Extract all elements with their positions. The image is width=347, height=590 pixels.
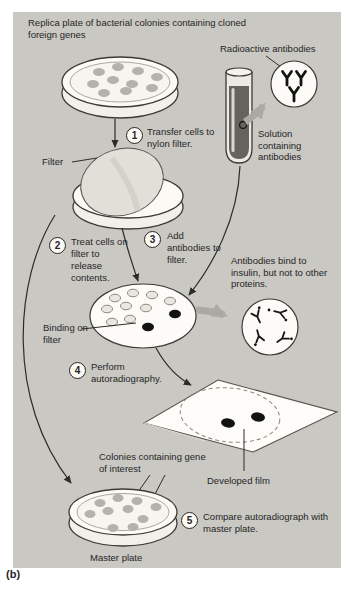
step-5-badge: 5 <box>181 512 198 529</box>
replica-plate-dish-icon <box>62 57 178 118</box>
step-2-badge: 2 <box>49 237 66 254</box>
colonies-containing-label: Colonies containing gene of interest <box>99 451 213 474</box>
step-3-label: Add antibodies to filter. <box>167 230 223 266</box>
step-1-label: Transfer cells to nylon filter. <box>147 126 219 150</box>
solution-label: Solution containing antibodies <box>258 128 316 163</box>
step-5-label: Compare autoradiograph with master plate… <box>203 511 338 535</box>
panel-letter-label: (b) <box>6 568 20 580</box>
developed-film-label: Developed film <box>207 475 270 487</box>
figure-immunoscreening-diagram: Replica plate of bacterial colonies cont… <box>0 0 347 590</box>
master-plate-label: Master plate <box>90 552 142 564</box>
step-4-label: Perform autoradiography. <box>91 361 186 385</box>
bound-antibodies-icon <box>242 299 298 355</box>
bound-colony-spot <box>142 323 154 331</box>
step-3-badge: 3 <box>144 231 161 248</box>
master-plate-dish-icon <box>69 489 177 546</box>
filter-dish-icon <box>72 138 183 229</box>
radioactive-antibodies-label: Radioactive antibodies <box>220 43 316 55</box>
replica-to-master-arrow <box>23 215 71 483</box>
step-2-label: Treat cells on filter to release content… <box>71 236 129 284</box>
binding-on-filter-label: Binding on filter <box>43 322 93 345</box>
step-1-badge: 1 <box>126 127 143 144</box>
antibodies-bind-label: Antibodies bind to insulin, but not to o… <box>231 255 329 290</box>
filter-label: Filter <box>42 156 63 168</box>
figure-title: Replica plate of bacterial colonies cont… <box>28 17 273 40</box>
step-4-badge: 4 <box>69 362 86 379</box>
filter-blot-icon <box>90 284 196 348</box>
radioactive-antibodies-icon <box>266 56 317 107</box>
zoom-gray-arrow-icon <box>196 310 224 315</box>
diagram-canvas <box>0 0 347 590</box>
bound-colony-spot <box>169 310 181 318</box>
